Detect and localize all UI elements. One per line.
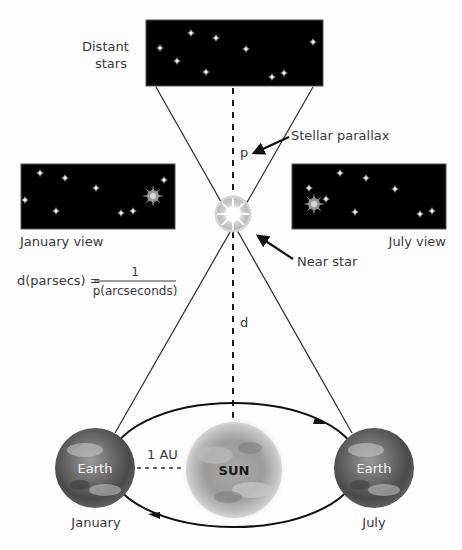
formula-denominator: p(arcseconds)	[93, 284, 178, 298]
stellar-parallax-label: Stellar parallax	[291, 128, 390, 143]
july-label: July	[361, 515, 386, 530]
earth-july: Earth	[334, 428, 414, 508]
one-au-label: 1 AU	[147, 447, 178, 462]
near-star-label: Near star	[297, 254, 358, 269]
stellar-parallax-diagram: Distant stars January view July view	[0, 0, 462, 550]
distant-stars-panel	[146, 20, 323, 86]
earth-january-label: Earth	[78, 461, 113, 476]
formula-numerator: 1	[131, 265, 139, 279]
stellar-parallax-arrow	[254, 137, 289, 153]
january-view-label: January view	[19, 234, 104, 249]
july-view-label: July view	[388, 234, 447, 249]
january-view-panel	[21, 164, 176, 229]
distance-d-label: d	[240, 315, 248, 330]
near-star-july-position	[303, 193, 325, 215]
formula-lhs: d(parsecs) =	[17, 273, 101, 288]
parallax-angle-p-label: p	[240, 145, 248, 160]
sun-label: SUN	[219, 463, 250, 478]
near-star-arrow	[258, 236, 293, 259]
near-star	[215, 196, 251, 232]
distant-stars-label-line2: stars	[95, 56, 127, 71]
earth-january: Earth	[55, 428, 135, 508]
parallax-formula: d(parsecs) = 1 p(arcseconds)	[17, 265, 177, 298]
january-label: January	[70, 515, 121, 530]
earth-july-label: Earth	[357, 461, 392, 476]
sun: SUN	[180, 416, 288, 524]
july-view-panel	[292, 164, 446, 229]
orbit-arrow-bottom	[148, 512, 160, 519]
near-star-january-position	[142, 185, 164, 207]
distant-stars-label-line1: Distant	[82, 39, 129, 54]
